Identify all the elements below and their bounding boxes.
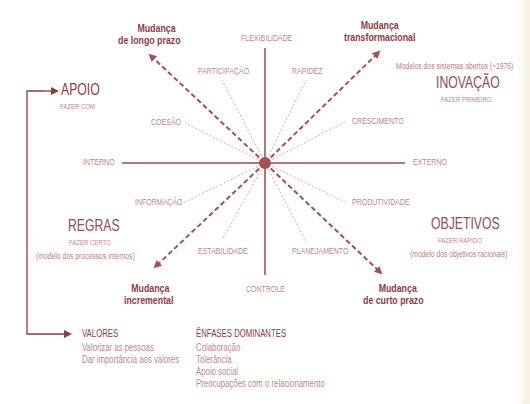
change-transformational-label: Mudança transformacional [344, 19, 415, 43]
radial-crescimento [265, 122, 345, 163]
quadrant-inovacao-note: Modelos dos sistemas abertos (~1976) [396, 61, 513, 71]
change-long-term-label: Mudança de longo prazo [118, 22, 181, 46]
quadrant-objetivos-subtitle: FAZER RÁPIDO [438, 236, 482, 245]
radial-informacao [183, 163, 265, 203]
label-informacao: INFORMAÇÃO [135, 197, 183, 207]
label-planejamento: PLANEJAMENTO [292, 246, 348, 256]
legend-enfases-item: Apoio social [196, 366, 325, 378]
quadrant-regras-title: REGRAS [68, 216, 120, 236]
legend-valores-item: Dar importância aos valores [82, 354, 179, 366]
radial-participacao [222, 80, 265, 163]
apoio-bracket [27, 91, 70, 334]
legend-valores-item: Valorizar as pessoas [82, 342, 179, 354]
quadrant-inovacao-subtitle: FAZER PRIMEIRO [441, 95, 492, 104]
axis-label-top: FLEXIBILIDADE [241, 33, 293, 43]
center-dot [259, 157, 271, 169]
legend-enfases-item: Preocupações com o relacionamento [196, 378, 325, 390]
quadrant-inovacao-title: INOVAÇÃO [436, 73, 500, 93]
legend-enfases-item: Colaboração [196, 342, 325, 354]
quadrant-objetivos-note: (modelo dos objetivos racionais) [410, 249, 508, 259]
label-rapidez: RAPIDEZ [292, 66, 322, 76]
legend-valores: VALORES Valorizar as pessoas Dar importâ… [82, 328, 207, 366]
radial-planejamento [265, 163, 306, 242]
arrow-short-term [265, 163, 381, 273]
legend-valores-title: VALORES [82, 328, 179, 339]
radial-estabilidade [222, 163, 265, 240]
radial-coesao [185, 123, 265, 163]
quadrant-apoio-subtitle: FAZER COM [60, 102, 95, 111]
quadrant-apoio-title: APOIO [61, 80, 100, 100]
label-produtividade: PRODUTIVIDADE [352, 197, 410, 207]
axis-label-bottom: CONTROLE [246, 284, 285, 294]
change-short-term-label: Mudança de curto prazo [363, 282, 424, 306]
axis-label-left: INTERNO [83, 157, 115, 167]
radial-produtividade [265, 163, 345, 202]
legend-enfases-title: ÊNFASES DOMINANTES [196, 328, 325, 339]
label-participacao: PARTICIPAÇÃO [198, 66, 249, 76]
legend-enfases-item: Tolerância [196, 354, 325, 366]
quadrant-regras-note: (modelo dos processos internos) [36, 251, 135, 261]
axis-label-right: EXTERNO [413, 157, 447, 167]
quadrant-regras-subtitle: FAZER CERTO [69, 238, 111, 247]
quadrant-objetivos-title: OBJETIVOS [431, 214, 500, 234]
label-crescimento: CRESCIMENTO [352, 116, 404, 126]
change-incremental-label: Mudança incremental [124, 282, 173, 306]
label-coesao: COESÃO [151, 117, 181, 127]
legend-enfases: ÊNFASES DOMINANTES Colaboração Tolerânci… [196, 328, 361, 390]
radial-rapidez [265, 80, 306, 163]
label-estabilidade: ESTABILIDADE [198, 246, 248, 256]
